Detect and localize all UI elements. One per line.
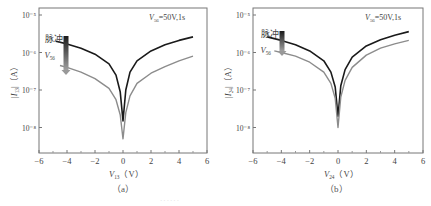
arrow-head-icon bbox=[62, 70, 71, 75]
y-tick-label: 10⁻⁸ bbox=[22, 124, 37, 133]
chart-b-svg: −6−4−2024610⁻⁵10⁻⁶10⁻⁷10⁻⁸|I24|（A）V24（V）… bbox=[215, 0, 431, 206]
legend-top-label: 脉冲 bbox=[45, 33, 63, 44]
y-tick-label: 10⁻⁵ bbox=[22, 11, 37, 20]
y-tick-label: 10⁻⁷ bbox=[236, 86, 251, 95]
panel-label-b: （b） bbox=[325, 182, 348, 195]
chart-panel-a: −6−4−2024610⁻⁵10⁻⁶10⁻⁷10⁻⁸|I13|（A）V13（V）… bbox=[0, 0, 215, 206]
y-axis-label-text: |I24|（A） bbox=[223, 62, 234, 98]
y-axis-label: |I13|（A） bbox=[9, 62, 20, 98]
x-tick-label: −6 bbox=[248, 156, 257, 166]
gradient-arrow-icon bbox=[64, 36, 69, 70]
series-before-pulse bbox=[56, 37, 193, 121]
y-tick-label: 10⁻⁶ bbox=[22, 49, 37, 58]
legend-bottom-label: V56 bbox=[261, 45, 272, 56]
chart-a-svg: −6−4−2024610⁻⁵10⁻⁶10⁻⁷10⁻⁸|I13|（A）V13（V）… bbox=[0, 0, 215, 206]
panel-label-a: （a） bbox=[112, 182, 134, 195]
y-tick-label: 10⁻⁶ bbox=[236, 49, 251, 58]
y-tick-label: 10⁻⁵ bbox=[236, 11, 251, 20]
y-axis-label-text: |I13|（A） bbox=[9, 62, 20, 98]
legend-bottom-label: V56 bbox=[45, 50, 56, 61]
x-tick-label: 6 bbox=[205, 156, 209, 166]
x-tick-label: −2 bbox=[90, 156, 99, 166]
y-tick-label: 10⁻⁸ bbox=[236, 124, 251, 133]
x-tick-label: −2 bbox=[305, 156, 314, 166]
x-tick-label: −4 bbox=[62, 156, 72, 166]
annotation-pulse-condition: V56=50V,1s bbox=[149, 13, 185, 23]
chart-panel-b: −6−4−2024610⁻⁵10⁻⁶10⁻⁷10⁻⁸|I24|（A）V24（V）… bbox=[215, 0, 431, 206]
x-axis-label: V24（V） bbox=[324, 169, 359, 180]
x-tick-label: 6 bbox=[421, 156, 425, 166]
legend-top-label: 脉冲 bbox=[261, 28, 279, 39]
y-tick-label: 10⁻⁷ bbox=[22, 86, 37, 95]
x-tick-label: −6 bbox=[34, 156, 43, 166]
annotation-pulse-condition: V56=50V,1s bbox=[365, 13, 401, 23]
x-tick-label: 2 bbox=[149, 156, 153, 166]
plot-frame bbox=[39, 8, 207, 153]
series-before-pulse bbox=[267, 32, 409, 117]
x-tick-label: 0 bbox=[121, 156, 125, 166]
x-tick-label: 4 bbox=[393, 156, 398, 166]
series-after-pulse bbox=[60, 56, 193, 139]
x-tick-label: 2 bbox=[364, 156, 368, 166]
figure-caption: ······ bbox=[160, 197, 180, 204]
y-axis-label: |I24|（A） bbox=[223, 62, 234, 98]
x-tick-label: −4 bbox=[277, 156, 287, 166]
gradient-arrow-icon bbox=[280, 31, 285, 51]
x-axis-label: V13（V） bbox=[109, 169, 144, 180]
x-tick-label: 0 bbox=[336, 156, 340, 166]
x-tick-label: 4 bbox=[177, 156, 182, 166]
